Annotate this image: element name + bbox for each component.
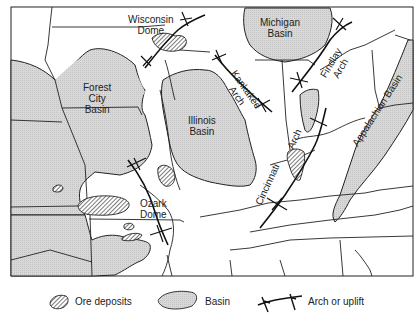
label-line: Michigan: [260, 17, 300, 28]
legend-ore-label: Ore deposits: [75, 296, 132, 307]
label-line: Illinois: [188, 115, 216, 126]
label-forest-city-basin: Forest City Basin: [83, 82, 111, 115]
label-line: Forest: [83, 82, 111, 93]
legend-arch-icon: [258, 294, 302, 312]
label-line: Dome: [140, 209, 167, 220]
label-line: City: [83, 93, 111, 104]
label-michigan-basin: Michigan Basin: [260, 17, 300, 39]
geologic-map: [0, 0, 418, 331]
label-line: Wisconsin: [128, 14, 174, 25]
label-line: Dome: [128, 25, 174, 36]
legend-ore-icon: [50, 295, 68, 309]
legend-arch-label: Arch or uplift: [308, 296, 364, 307]
ore-west-small: [53, 185, 63, 192]
legend-basin-icon: [158, 291, 196, 309]
label-ozark-dome: Ozark Dome: [140, 198, 167, 220]
label-line: Basin: [83, 104, 111, 115]
ore-ozark-small1: [124, 223, 134, 230]
legend-basin-label: Basin: [205, 296, 230, 307]
label-wisconsin-dome: Wisconsin Dome: [128, 14, 174, 36]
label-illinois-basin: Illinois Basin: [188, 115, 216, 137]
label-line: Ozark: [140, 198, 167, 209]
ore-ozark-main: [78, 196, 129, 215]
label-line: Basin: [260, 28, 300, 39]
label-line: Basin: [188, 126, 216, 137]
